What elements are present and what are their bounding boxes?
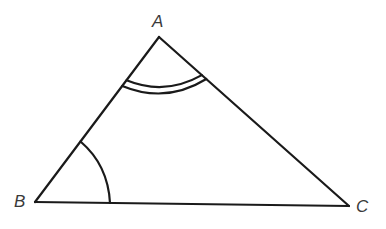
triangle-diagram [0, 0, 386, 229]
vertex-label-c: C [356, 198, 368, 215]
angle-a-inner-arc [127, 75, 202, 87]
angle-b-arc [81, 142, 111, 204]
side-bc [35, 202, 349, 206]
side-ab [35, 37, 159, 202]
side-ca [159, 37, 349, 206]
vertex-label-b: B [14, 193, 25, 210]
vertex-label-a: A [152, 13, 163, 30]
